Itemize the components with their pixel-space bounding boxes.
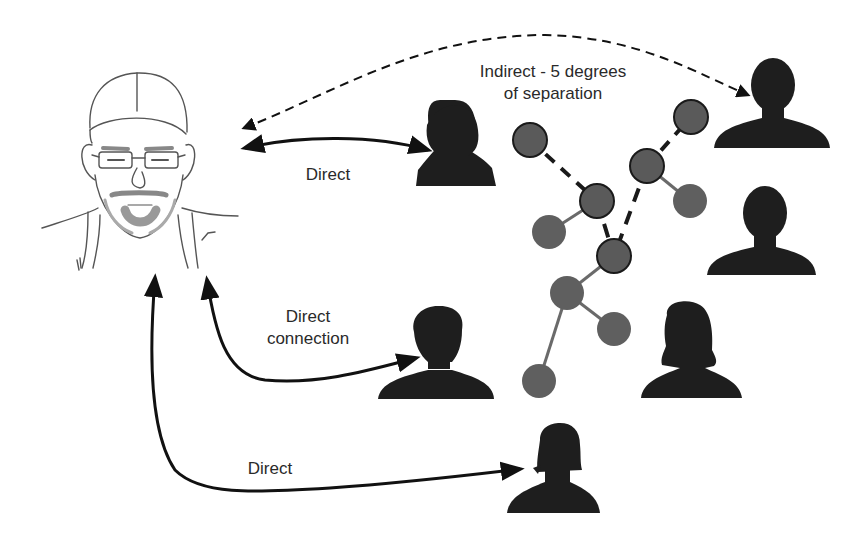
direct-connection-label-line2: connection bbox=[258, 328, 358, 350]
direct-top-label: Direct bbox=[296, 164, 360, 186]
man-right-silhouette bbox=[707, 186, 816, 275]
direct-connection-label: Direct connection bbox=[258, 306, 358, 350]
man-top-right-silhouette bbox=[714, 58, 830, 148]
direct-connection-label-line1: Direct bbox=[258, 306, 358, 328]
degrees-of-separation-diagram: Indirect - 5 degrees of separation Direc… bbox=[0, 0, 861, 543]
indirect-label: Indirect - 5 degrees of separation bbox=[448, 61, 658, 105]
self-portrait-sketch bbox=[42, 73, 238, 270]
woman-top-silhouette bbox=[416, 100, 496, 186]
indirect-label-line2: of separation bbox=[448, 83, 658, 105]
direct-bottom-label: Direct bbox=[238, 458, 302, 480]
direct-connection-arrow-top bbox=[245, 138, 428, 150]
indirect-label-line1: Indirect - 5 degrees bbox=[448, 61, 658, 83]
woman-bottom-silhouette bbox=[507, 423, 600, 513]
man-middle-silhouette bbox=[378, 306, 494, 399]
woman-bottom-right-silhouette bbox=[641, 301, 742, 398]
